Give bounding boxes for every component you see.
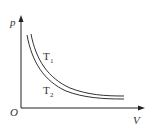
y-axis-arrow-icon <box>19 15 24 22</box>
svg-text:2: 2 <box>50 91 54 99</box>
x-axis-arrow-icon <box>138 106 145 111</box>
y-axis-label: p <box>9 16 16 28</box>
svg-text:T: T <box>43 84 50 96</box>
svg-text:1: 1 <box>50 57 54 65</box>
t2-label: T 2 <box>43 84 54 99</box>
isotherm-t2-curve <box>27 35 124 99</box>
origin-label: O <box>10 106 18 118</box>
svg-text:T: T <box>43 50 50 62</box>
pv-diagram: p O V T 1 T 2 <box>0 0 156 128</box>
x-axis-label: V <box>133 114 141 126</box>
t1-label: T 1 <box>43 50 54 65</box>
